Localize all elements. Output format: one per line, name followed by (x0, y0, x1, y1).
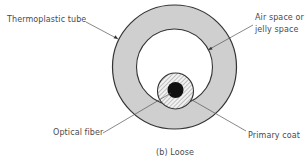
label-air-space-line2: jelly space (255, 24, 298, 35)
label-thermoplastic-tube: Thermoplastic tube (7, 14, 86, 25)
label-air-space-line1: Air space or (255, 12, 304, 23)
label-primary-coat: Primary coat (248, 130, 300, 141)
figure-caption: (b) Loose (156, 147, 194, 158)
leader-thermoplastic (86, 22, 118, 39)
optical-fiber-core (168, 82, 184, 98)
label-optical-fiber: Optical fiber (53, 127, 103, 138)
